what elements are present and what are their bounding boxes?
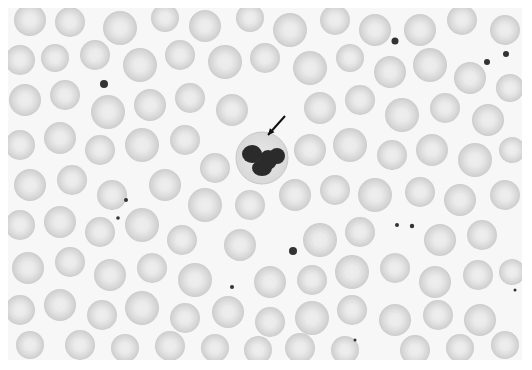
- platelet: [392, 38, 399, 45]
- red-blood-cell: [55, 8, 85, 37]
- red-blood-cell: [293, 51, 327, 85]
- red-blood-cell: [297, 265, 327, 295]
- red-blood-cell: [304, 92, 336, 124]
- red-blood-cell: [463, 260, 493, 290]
- red-blood-cell: [336, 44, 364, 72]
- red-blood-cell: [178, 263, 212, 297]
- red-blood-cell: [273, 13, 307, 47]
- red-blood-cell: [123, 48, 157, 82]
- red-blood-cell: [125, 291, 159, 325]
- red-blood-cell: [335, 255, 369, 289]
- red-blood-cell: [12, 252, 44, 284]
- platelet: [503, 51, 509, 57]
- red-blood-cell: [57, 165, 87, 195]
- red-blood-cell: [337, 295, 367, 325]
- red-blood-cell: [188, 188, 222, 222]
- platelet: [514, 289, 517, 292]
- red-blood-cell: [14, 169, 46, 201]
- red-blood-cell: [167, 225, 197, 255]
- red-blood-cell: [467, 220, 497, 250]
- red-blood-cell: [189, 10, 221, 42]
- red-blood-cell: [125, 208, 159, 242]
- red-blood-cell: [137, 253, 167, 283]
- red-blood-cell: [224, 229, 256, 261]
- red-blood-cell: [405, 177, 435, 207]
- red-blood-cell: [9, 84, 41, 116]
- red-blood-cell: [170, 125, 200, 155]
- red-blood-cell: [404, 14, 436, 46]
- nucleus-lobe: [269, 148, 285, 164]
- red-blood-cell: [444, 184, 476, 216]
- red-blood-cell: [380, 253, 410, 283]
- micrograph-canvas: [0, 0, 532, 370]
- red-blood-cell: [491, 331, 519, 359]
- blood-smear-image: [8, 8, 522, 360]
- red-blood-cell: [80, 40, 110, 70]
- red-blood-cell: [155, 331, 185, 360]
- platelet: [410, 224, 414, 228]
- red-blood-cell: [44, 122, 76, 154]
- red-blood-cell: [250, 43, 280, 73]
- red-blood-cell: [125, 128, 159, 162]
- red-blood-cell: [377, 140, 407, 170]
- red-blood-cell: [44, 206, 76, 238]
- red-blood-cell: [175, 83, 205, 113]
- red-blood-cell: [490, 180, 520, 210]
- red-blood-cell: [424, 224, 456, 256]
- red-blood-cell: [303, 223, 337, 257]
- red-blood-cell: [279, 179, 311, 211]
- red-blood-cell: [87, 300, 117, 330]
- red-blood-cell: [91, 95, 125, 129]
- red-blood-cell: [419, 266, 451, 298]
- red-blood-cell: [85, 217, 115, 247]
- red-blood-cell: [97, 180, 127, 210]
- red-blood-cell: [85, 135, 115, 165]
- red-blood-cell: [50, 80, 80, 110]
- red-blood-cell: [16, 331, 44, 359]
- red-blood-cell: [295, 301, 329, 335]
- red-blood-cell: [254, 266, 286, 298]
- red-blood-cell: [423, 300, 453, 330]
- platelet: [230, 285, 234, 289]
- red-blood-cell: [134, 89, 166, 121]
- nucleus-lobe: [252, 160, 272, 176]
- red-blood-cell: [359, 14, 391, 46]
- red-blood-cell: [255, 307, 285, 337]
- red-blood-cell: [430, 93, 460, 123]
- red-blood-cell: [200, 153, 230, 183]
- platelet: [124, 198, 128, 202]
- red-blood-cell: [212, 296, 244, 328]
- red-blood-cell: [345, 217, 375, 247]
- red-blood-cell: [345, 85, 375, 115]
- red-blood-cell: [165, 40, 195, 70]
- red-blood-cell: [374, 56, 406, 88]
- platelet: [395, 223, 399, 227]
- red-blood-cell: [385, 98, 419, 132]
- red-blood-cell: [44, 289, 76, 321]
- red-blood-cell: [413, 48, 447, 82]
- red-blood-cell: [464, 304, 496, 336]
- platelet: [116, 216, 120, 220]
- platelet: [289, 247, 297, 255]
- red-blood-cell: [170, 303, 200, 333]
- red-blood-cell: [235, 190, 265, 220]
- red-blood-cell: [55, 247, 85, 277]
- red-blood-cell: [454, 62, 486, 94]
- platelet: [100, 80, 108, 88]
- red-blood-cell: [416, 134, 448, 166]
- red-blood-cell: [320, 175, 350, 205]
- red-blood-cell: [490, 15, 520, 45]
- nucleus-lobe: [242, 145, 262, 163]
- red-blood-cell: [333, 128, 367, 162]
- red-blood-cell: [216, 94, 248, 126]
- neutrophil-cell: [236, 132, 288, 184]
- red-blood-cell: [103, 11, 137, 45]
- red-blood-cell: [294, 134, 326, 166]
- red-blood-cell: [41, 44, 69, 72]
- red-blood-cell: [208, 45, 242, 79]
- red-blood-cell: [379, 304, 411, 336]
- red-blood-cell: [358, 178, 392, 212]
- red-blood-cell: [458, 143, 492, 177]
- platelet: [354, 339, 357, 342]
- red-blood-cell: [149, 169, 181, 201]
